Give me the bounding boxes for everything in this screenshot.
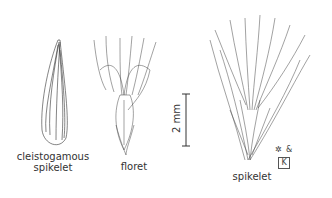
- spikelet-drawing: [200, 0, 332, 198]
- signature-ampersand: &: [286, 145, 292, 154]
- scale-bar-label: 2 mm: [171, 99, 182, 139]
- signature-glyph-icon: ✲: [275, 145, 282, 154]
- floret-label: floret: [104, 161, 164, 172]
- artist-signature: & ✲ K: [273, 145, 297, 173]
- signature-mark: K: [278, 157, 290, 169]
- scale-bar: [180, 92, 200, 152]
